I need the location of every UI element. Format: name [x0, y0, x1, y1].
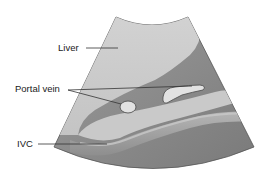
- portal-vein-cross-section: [120, 101, 136, 113]
- liver-label: Liver: [58, 43, 79, 53]
- ivc-label: IVC: [17, 139, 33, 149]
- ultrasound-diagram: [0, 0, 270, 189]
- portal-vein-label: Portal vein: [15, 84, 60, 94]
